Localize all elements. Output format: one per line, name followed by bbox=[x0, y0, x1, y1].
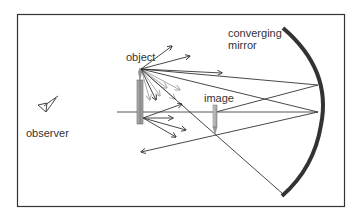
mirror-label-line1: converging bbox=[228, 27, 282, 39]
observer-label: observer bbox=[26, 127, 69, 139]
diagram-frame bbox=[18, 15, 345, 207]
image-arrow bbox=[213, 105, 217, 127]
image-label: image bbox=[204, 92, 234, 104]
diagram-canvas bbox=[0, 0, 357, 213]
diagram-stage: object image observer converging mirror bbox=[0, 0, 357, 213]
object-candle bbox=[137, 80, 143, 124]
mirror-label: converging mirror bbox=[228, 27, 282, 51]
object-label: object bbox=[126, 51, 155, 63]
mirror-label-line2: mirror bbox=[228, 39, 282, 51]
